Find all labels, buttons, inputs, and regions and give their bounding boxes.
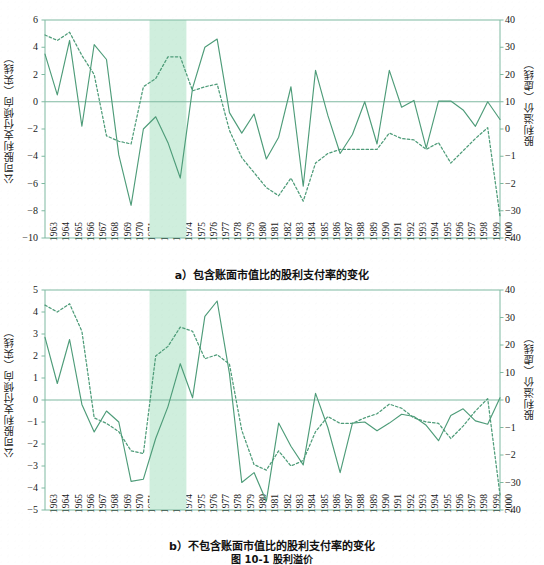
- series-dividend-premium: [45, 32, 500, 216]
- series-propensity-to-pay: [45, 301, 500, 501]
- series-propensity-to-pay: [45, 39, 500, 205]
- panel-a-caption: a）包含账面市值比的股利支付率的变化: [0, 266, 544, 282]
- chart-panel-a: 公司股利支付倾向（实线） 股利溢价（虚线） 6420−2−4−6−8−10 40…: [0, 0, 544, 290]
- series-dividend-premium: [45, 304, 500, 495]
- shaded-period-band: [150, 20, 187, 238]
- chart-panel-b: 公司股利支付倾向（实线） 股利溢价（虚线） 543210−1−2−3−4−5 4…: [0, 282, 544, 565]
- dividend-premium-figure: 公司股利支付倾向（实线） 股利溢价（虚线） 6420−2−4−6−8−10 40…: [0, 0, 544, 565]
- panel-a-plot: [0, 0, 544, 240]
- figure-caption: 图 10-1 股利溢价: [0, 551, 544, 565]
- panel-b-plot: [0, 282, 544, 512]
